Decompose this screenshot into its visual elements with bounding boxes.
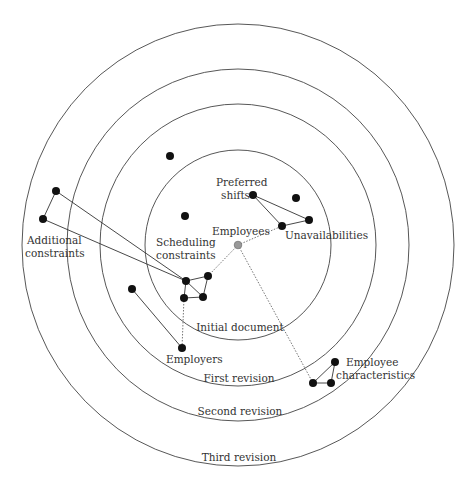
label-employees: Employees [212,225,270,237]
node-n1 [166,152,174,160]
node-emp0 [128,285,136,293]
node-employees-center [234,241,242,249]
node-add1 [52,187,60,195]
label-scheduling-constraints-line2: constraints [156,249,216,261]
node-ec1 [331,358,339,366]
edge [282,220,309,226]
node-ec2 [309,379,317,387]
ring-label-third-revision: Third revision [202,451,277,463]
edge [253,195,309,220]
nodes-layer [39,152,339,387]
diagram-canvas: Preferred shifts Employees Unavailabilit… [0,0,471,487]
ring-label-second-revision: Second revision [198,405,283,417]
node-sc2 [204,272,212,280]
node-add2 [39,215,47,223]
label-employee-characteristics-line2: characteristics [336,369,415,381]
node-ec3 [327,379,335,387]
revision-rings-diagram: Preferred shifts Employees Unavailabilit… [0,0,471,487]
label-additional-constraints-line1: Additional [26,234,82,246]
label-preferred-shifts-line2: shifts [221,189,250,201]
node-sc4 [199,293,207,301]
node-pref [249,191,257,199]
edge [43,191,56,219]
ring-label-initial-document: Initial document [196,321,284,333]
node-sc1 [182,277,190,285]
node-n3 [292,194,300,202]
label-scheduling-constraints-line1: Scheduling [156,236,216,248]
label-employers: Employers [166,353,223,365]
dotted-edge [182,298,184,348]
ring-label-first-revision: First revision [204,372,275,384]
label-preferred-shifts-line1: Preferred [216,176,268,188]
edge [132,289,182,348]
edge [253,195,282,226]
label-additional-constraints-line2: constraints [25,247,85,259]
label-employee-characteristics-line1: Employee [346,356,398,368]
node-unav2 [305,216,313,224]
node-sc3 [180,294,188,302]
label-unavailabilities: Unavailabilities [285,229,368,241]
node-emp [178,344,186,352]
node-n2 [181,212,189,220]
